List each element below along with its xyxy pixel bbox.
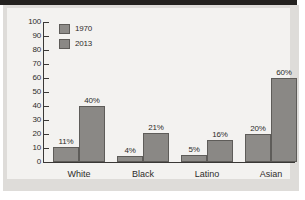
bar-value-label: 60% xyxy=(276,69,291,77)
y-axis-tick-label-text: 100 xyxy=(19,18,41,26)
bar-group: 11%40%White xyxy=(53,22,105,162)
plot-area: 1009080706050403020100 1970 2013 11%40%W… xyxy=(7,8,290,179)
y-axis-tick-label-text: 60 xyxy=(19,74,41,82)
bar-asian-1970[interactable]: 20% xyxy=(245,134,271,162)
y-axis-tick xyxy=(44,50,49,51)
bar-group: 5%16%Latino xyxy=(181,22,233,162)
bar-value-label: 16% xyxy=(212,131,227,139)
bar-value-label: 11% xyxy=(59,138,74,146)
y-axis-tick-label: 70 xyxy=(15,60,41,68)
y-axis-tick-label-text: 50 xyxy=(19,88,41,96)
bar-black-2013[interactable]: 21% xyxy=(143,133,169,162)
bar-value-label: 5% xyxy=(188,146,199,154)
bar-value-label: 40% xyxy=(84,97,99,105)
y-axis-tick xyxy=(44,162,49,163)
y-axis-tick-label: 0 xyxy=(15,158,41,166)
y-axis-tick xyxy=(44,148,49,149)
y-axis-tick-label: 100 xyxy=(15,18,41,26)
y-axis-tick-label-text: 10 xyxy=(19,144,41,152)
y-axis-tick-label: 40 xyxy=(15,102,41,110)
y-axis-tick-label-text: 40 xyxy=(19,102,41,110)
y-axis-tick-label-text: 0 xyxy=(19,158,41,166)
y-axis-tick xyxy=(44,64,49,65)
y-axis-tick xyxy=(44,36,49,37)
y-axis-tick-label-text: 70 xyxy=(19,60,41,68)
bar-value-label: 20% xyxy=(250,125,265,133)
bar-value-label: 21% xyxy=(148,124,163,132)
x-axis-line xyxy=(43,162,295,163)
y-axis-tick-label-text: 90 xyxy=(19,32,41,40)
y-axis-tick-label-text: 80 xyxy=(19,46,41,54)
y-axis-tick xyxy=(44,92,49,93)
x-axis-category-label: Asian xyxy=(260,170,283,179)
x-axis-category-label: Latino xyxy=(195,170,220,179)
x-axis-category-label: White xyxy=(67,170,90,179)
y-axis-tick-label: 80 xyxy=(15,46,41,54)
bar-value-label: 4% xyxy=(124,147,135,155)
y-axis-tick-label: 20 xyxy=(15,130,41,138)
bar-asian-2013[interactable]: 60% xyxy=(271,78,297,162)
y-axis-tick-label: 50 xyxy=(15,88,41,96)
bar-latino-2013[interactable]: 16% xyxy=(207,140,233,162)
chart-page: 1009080706050403020100 1970 2013 11%40%W… xyxy=(0,0,305,200)
y-axis-tick-label-text: 30 xyxy=(19,116,41,124)
bar-group: 20%60%Asian xyxy=(245,22,297,162)
y-axis-tick xyxy=(44,120,49,121)
bar-white-2013[interactable]: 40% xyxy=(79,106,105,162)
y-axis-tick-label-text: 20 xyxy=(19,130,41,138)
bar-latino-1970[interactable]: 5% xyxy=(181,155,207,162)
y-axis-tick-label: 90 xyxy=(15,32,41,40)
bar-black-1970[interactable]: 4% xyxy=(117,156,143,162)
y-axis-tick xyxy=(44,134,49,135)
y-axis-tick-label: 30 xyxy=(15,116,41,124)
x-axis-category-label: Black xyxy=(132,170,154,179)
y-axis-tick xyxy=(44,22,49,23)
bar-group: 4%21%Black xyxy=(117,22,169,162)
y-axis-tick xyxy=(44,78,49,79)
y-axis-tick xyxy=(44,106,49,107)
bar-white-1970[interactable]: 11% xyxy=(53,147,79,162)
y-axis-tick-label: 10 xyxy=(15,144,41,152)
y-axis-tick-label: 60 xyxy=(15,74,41,82)
